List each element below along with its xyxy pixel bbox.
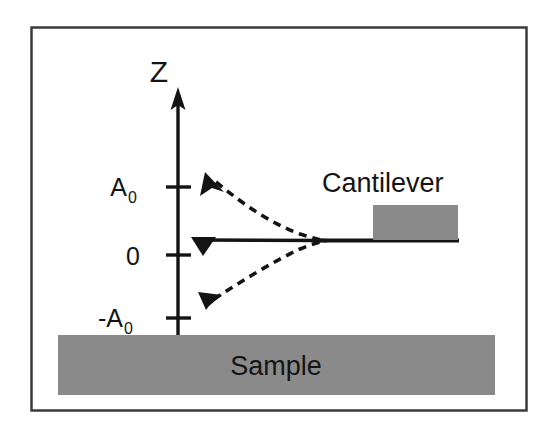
sample-group: Sample <box>58 335 495 395</box>
equilibrium-path <box>200 240 326 241</box>
cantilever-oscillation-diagram: Z A 0 0 -A 0 Cantilever <box>0 0 555 429</box>
z-axis-label: Z <box>150 55 168 88</box>
tick-label-zero-text: 0 <box>126 242 140 270</box>
figure-root: Z A 0 0 -A 0 Cantilever <box>0 0 555 429</box>
cantilever-label: Cantilever <box>322 168 444 198</box>
cantilever-block <box>373 205 458 240</box>
tick-label-negative-amplitude-subscript: 0 <box>124 320 133 337</box>
tick-label-positive-amplitude-subscript: 0 <box>128 189 137 206</box>
sample-label: Sample <box>230 351 322 381</box>
tick-label-zero: 0 <box>126 242 140 270</box>
tick-label-negative-amplitude-text: -A <box>98 304 123 332</box>
tick-label-positive-amplitude-text: A <box>110 173 127 201</box>
